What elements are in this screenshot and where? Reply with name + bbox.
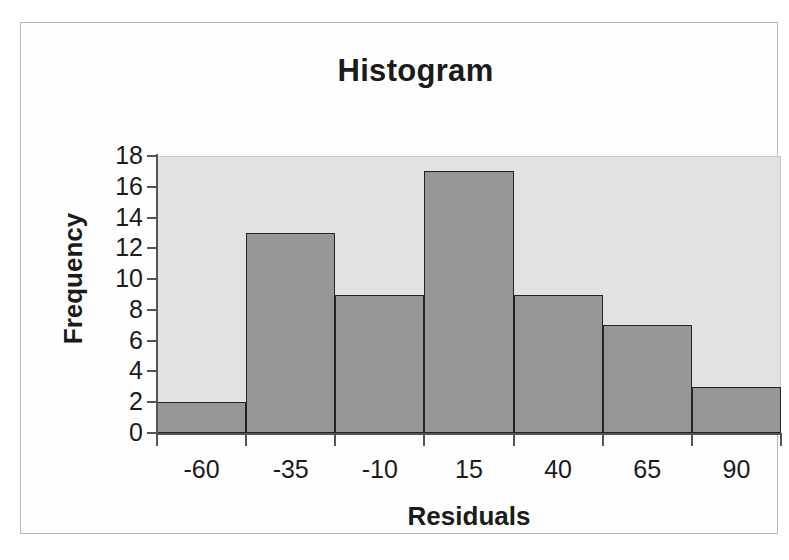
y-axis-tick xyxy=(147,278,157,280)
y-axis-tick-label: 0 xyxy=(99,420,143,445)
x-axis-line xyxy=(156,433,782,435)
y-axis-title: Frequency xyxy=(58,179,89,379)
y-axis-tick-label: 8 xyxy=(99,297,143,322)
y-axis-tick-label: 2 xyxy=(99,389,143,414)
y-axis-tick xyxy=(147,340,157,342)
y-axis-tick-label: 4 xyxy=(99,358,143,383)
y-axis-tick-label: 6 xyxy=(99,328,143,353)
x-axis-tick xyxy=(780,434,782,446)
histogram-bar xyxy=(603,325,692,433)
y-axis-tick xyxy=(147,247,157,249)
histogram-bar xyxy=(424,171,513,433)
chart-frame: Histogram 024681012141618 -60-35-1015406… xyxy=(20,22,778,534)
histogram-bar xyxy=(514,295,603,434)
x-axis-tick xyxy=(334,434,336,446)
x-axis-tick xyxy=(513,434,515,446)
y-axis-tick-labels: 024681012141618 xyxy=(95,23,143,560)
x-axis-tick xyxy=(156,434,158,446)
x-axis-tick xyxy=(691,434,693,446)
x-axis-tick xyxy=(423,434,425,446)
histogram-bar xyxy=(157,402,246,433)
y-axis-tick-label: 14 xyxy=(99,205,143,230)
histogram-bar xyxy=(246,233,335,433)
x-axis-tick-label: 90 xyxy=(692,457,781,482)
y-axis-tick xyxy=(147,155,157,157)
x-axis-tick-label: 15 xyxy=(424,457,513,482)
y-axis-line xyxy=(156,154,158,435)
x-axis-tick-label: 40 xyxy=(514,457,603,482)
y-axis-tick xyxy=(147,401,157,403)
x-axis-tick-label: -60 xyxy=(157,457,246,482)
y-axis-tick xyxy=(147,186,157,188)
x-axis-tick-label: 65 xyxy=(603,457,692,482)
histogram-bar xyxy=(692,387,781,433)
histogram-bars xyxy=(157,157,780,433)
x-axis-title: Residuals xyxy=(157,501,781,532)
histogram-bar xyxy=(335,295,424,434)
y-axis-tick-label: 12 xyxy=(99,235,143,260)
figure-page: Histogram 024681012141618 -60-35-1015406… xyxy=(0,0,789,560)
y-axis-tick xyxy=(147,309,157,311)
y-axis-tick-label: 18 xyxy=(99,143,143,168)
x-axis-tick-label: -10 xyxy=(335,457,424,482)
y-axis-tick xyxy=(147,370,157,372)
y-axis-tick-label: 16 xyxy=(99,174,143,199)
plot-area xyxy=(157,156,781,433)
x-axis-tick-label: -35 xyxy=(246,457,335,482)
y-axis-tick-label: 10 xyxy=(99,266,143,291)
y-axis-tick xyxy=(147,217,157,219)
x-axis-tick xyxy=(245,434,247,446)
x-axis-tick xyxy=(602,434,604,446)
